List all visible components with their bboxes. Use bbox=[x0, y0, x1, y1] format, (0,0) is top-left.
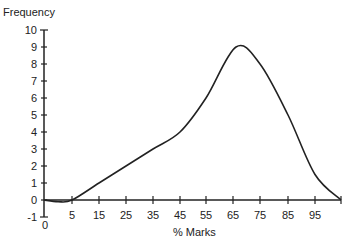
y-tick-label: 10 bbox=[25, 24, 37, 36]
y-axis: -1012345678910 bbox=[25, 24, 48, 223]
y-tick-label: 2 bbox=[31, 160, 37, 172]
x-tick-label: 55 bbox=[200, 209, 212, 221]
x-tick-label: 45 bbox=[174, 209, 186, 221]
y-tick-label: 9 bbox=[31, 41, 37, 53]
x-tick-label: 35 bbox=[147, 209, 159, 221]
frequency-curve bbox=[44, 45, 341, 202]
y-tick-label: 8 bbox=[31, 58, 37, 70]
x-tick-label: 95 bbox=[309, 209, 321, 221]
x-tick-label: 65 bbox=[227, 209, 239, 221]
y-tick-label: 3 bbox=[31, 143, 37, 155]
y-tick-label: 5 bbox=[31, 109, 37, 121]
y-tick-label: 1 bbox=[31, 177, 37, 189]
line-chart: -1012345678910 05152535455565758595 bbox=[0, 0, 354, 244]
x-tick-label: 85 bbox=[282, 209, 294, 221]
y-tick-label: 6 bbox=[31, 92, 37, 104]
x-tick-label: 75 bbox=[254, 209, 266, 221]
x-tick-label: 5 bbox=[69, 209, 75, 221]
y-tick-label: 0 bbox=[31, 194, 37, 206]
x-tick-label: 0 bbox=[42, 219, 48, 231]
y-tick-label: 7 bbox=[31, 75, 37, 87]
x-tick-label: 15 bbox=[93, 209, 105, 221]
x-tick-label: 25 bbox=[120, 209, 132, 221]
y-tick-label: 4 bbox=[31, 126, 37, 138]
x-axis: 05152535455565758595 bbox=[42, 196, 341, 231]
y-tick-label: -1 bbox=[27, 211, 37, 223]
